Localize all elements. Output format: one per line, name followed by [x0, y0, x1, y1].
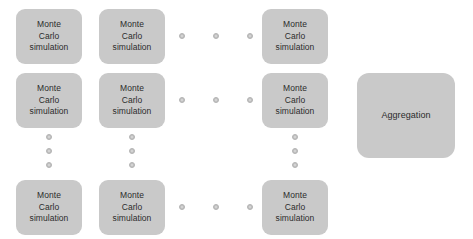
monte-carlo-simulation-node[interactable]: Monte Carlo simulation [16, 9, 82, 64]
ellipsis-dot-icon [213, 33, 219, 39]
ellipsis-dot-icon [46, 148, 52, 154]
monte-carlo-simulation-node[interactable]: Monte Carlo simulation [262, 73, 328, 128]
ellipsis-dot-icon [292, 148, 298, 154]
monte-carlo-simulation-label: Monte Carlo simulation [274, 19, 317, 54]
ellipsis-dot-icon [179, 33, 185, 39]
ellipsis-dot-icon [247, 204, 253, 210]
aggregation-label: Aggregation [379, 110, 432, 121]
monte-carlo-simulation-label: Monte Carlo simulation [111, 83, 154, 118]
ellipsis-dot-icon [46, 162, 52, 168]
monte-carlo-simulation-label: Monte Carlo simulation [28, 190, 71, 225]
monte-carlo-simulation-label: Monte Carlo simulation [274, 190, 317, 225]
ellipsis-dot-icon [179, 97, 185, 103]
monte-carlo-simulation-node[interactable]: Monte Carlo simulation [16, 180, 82, 235]
ellipsis-dot-icon [46, 134, 52, 140]
monte-carlo-simulation-node[interactable]: Monte Carlo simulation [262, 180, 328, 235]
ellipsis-dot-icon [247, 33, 253, 39]
monte-carlo-simulation-node[interactable]: Monte Carlo simulation [99, 73, 165, 128]
monte-carlo-simulation-label: Monte Carlo simulation [28, 83, 71, 118]
ellipsis-dot-icon [213, 204, 219, 210]
monte-carlo-simulation-label: Monte Carlo simulation [111, 190, 154, 225]
ellipsis-dot-icon [129, 162, 135, 168]
monte-carlo-simulation-label: Monte Carlo simulation [28, 19, 71, 54]
ellipsis-dot-icon [129, 148, 135, 154]
ellipsis-dot-icon [213, 97, 219, 103]
monte-carlo-simulation-node[interactable]: Monte Carlo simulation [99, 9, 165, 64]
ellipsis-dot-icon [247, 97, 253, 103]
monte-carlo-simulation-label: Monte Carlo simulation [111, 19, 154, 54]
monte-carlo-simulation-node[interactable]: Monte Carlo simulation [262, 9, 328, 64]
ellipsis-dot-icon [292, 162, 298, 168]
monte-carlo-simulation-node[interactable]: Monte Carlo simulation [99, 180, 165, 235]
ellipsis-dot-icon [129, 134, 135, 140]
diagram-canvas: Monte Carlo simulationMonte Carlo simula… [0, 0, 473, 239]
monte-carlo-simulation-label: Monte Carlo simulation [274, 83, 317, 118]
aggregation-node[interactable]: Aggregation [357, 73, 455, 158]
monte-carlo-simulation-node[interactable]: Monte Carlo simulation [16, 73, 82, 128]
ellipsis-dot-icon [292, 134, 298, 140]
ellipsis-dot-icon [179, 204, 185, 210]
